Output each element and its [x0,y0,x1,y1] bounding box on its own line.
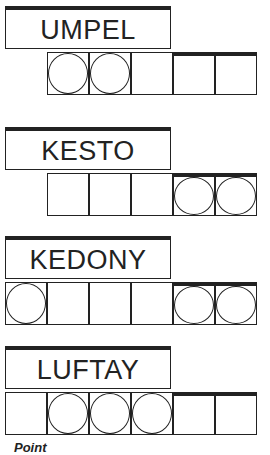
answer-cell[interactable] [215,392,257,435]
answer-cell-circled[interactable] [89,52,131,95]
circle-marker-icon [6,283,46,324]
answer-cell-circled[interactable] [89,392,131,435]
answer-cell-circled[interactable] [47,392,89,435]
word-label-box: UMPEL [5,6,171,49]
answer-cell-circled[interactable] [131,392,173,435]
answer-cell[interactable] [131,52,173,95]
footer-caption: Point [14,440,47,455]
scrambled-word: KESTO [41,136,135,167]
answer-cell[interactable] [5,392,47,435]
answer-cell-circled[interactable] [5,282,47,325]
answer-cell[interactable] [131,282,173,325]
answer-cell[interactable] [47,282,89,325]
circle-marker-icon [90,53,130,94]
circle-marker-icon [174,286,214,324]
answer-cell-circled[interactable] [215,282,257,325]
answer-cell-circled[interactable] [215,173,257,216]
answer-cell-circled[interactable] [47,52,89,95]
circle-marker-icon [48,53,88,94]
answer-cell[interactable] [47,173,89,216]
circle-marker-icon [132,393,172,434]
word-label-box: KEDONY [5,236,171,279]
answer-cell[interactable] [173,52,215,95]
word-label-box: LUFTAY [5,346,171,389]
answer-cell-circled[interactable] [173,173,215,216]
answer-cell[interactable] [131,173,173,216]
circle-marker-icon [216,286,256,324]
circle-marker-icon [48,393,88,434]
answer-cell[interactable] [215,52,257,95]
scrambled-word: LUFTAY [37,355,140,386]
circle-marker-icon [174,177,214,215]
circle-marker-icon [216,177,256,215]
answer-cell[interactable] [173,392,215,435]
circle-marker-icon [90,393,130,434]
scrambled-word: UMPEL [40,15,136,46]
scrambled-word: KEDONY [29,245,146,276]
answer-cell[interactable] [89,173,131,216]
answer-cell-circled[interactable] [173,282,215,325]
word-label-box: KESTO [5,127,171,170]
answer-cell[interactable] [89,282,131,325]
